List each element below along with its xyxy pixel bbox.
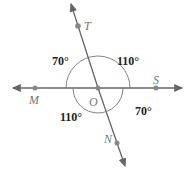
point-t: [75, 23, 81, 29]
angle-upper-right: 110°: [117, 54, 139, 68]
point-m: [33, 86, 38, 91]
line-tn-up: [71, 4, 98, 88]
line-tn-down: [98, 88, 125, 166]
point-o: [96, 86, 101, 91]
label-m: M: [28, 93, 40, 107]
label-n: N: [103, 132, 113, 146]
label-t: T: [84, 19, 92, 33]
point-n: [115, 141, 120, 146]
angle-lower-right: 70°: [135, 104, 152, 118]
angle-lower-left: 110°: [60, 110, 82, 124]
angle-upper-left: 70°: [52, 54, 69, 68]
label-s: S: [153, 73, 159, 87]
intersecting-lines-diagram: T M O S N 70° 110° 110° 70°: [0, 0, 194, 178]
label-o: O: [89, 95, 98, 109]
